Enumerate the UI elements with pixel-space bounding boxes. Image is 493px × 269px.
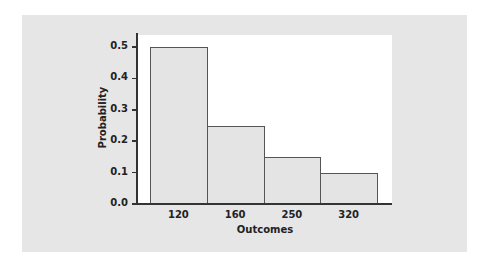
x-axis-line — [136, 203, 392, 205]
x-tick-label: 120 — [150, 209, 207, 220]
x-tick-label: 320 — [320, 209, 377, 220]
bar-320 — [320, 173, 378, 204]
y-tick-label: 0.5 — [98, 40, 128, 51]
bar-250 — [264, 157, 322, 204]
x-tick-label: 160 — [207, 209, 264, 220]
y-tick-label: 0.0 — [98, 197, 128, 208]
x-axis-label: Outcomes — [200, 224, 330, 235]
y-tick-label: 0.1 — [98, 166, 128, 177]
bar-160 — [207, 126, 265, 205]
bar-120 — [150, 47, 208, 204]
x-tick-label: 250 — [264, 209, 321, 220]
y-axis-line — [136, 33, 138, 205]
y-axis-label: Probability — [97, 78, 108, 158]
